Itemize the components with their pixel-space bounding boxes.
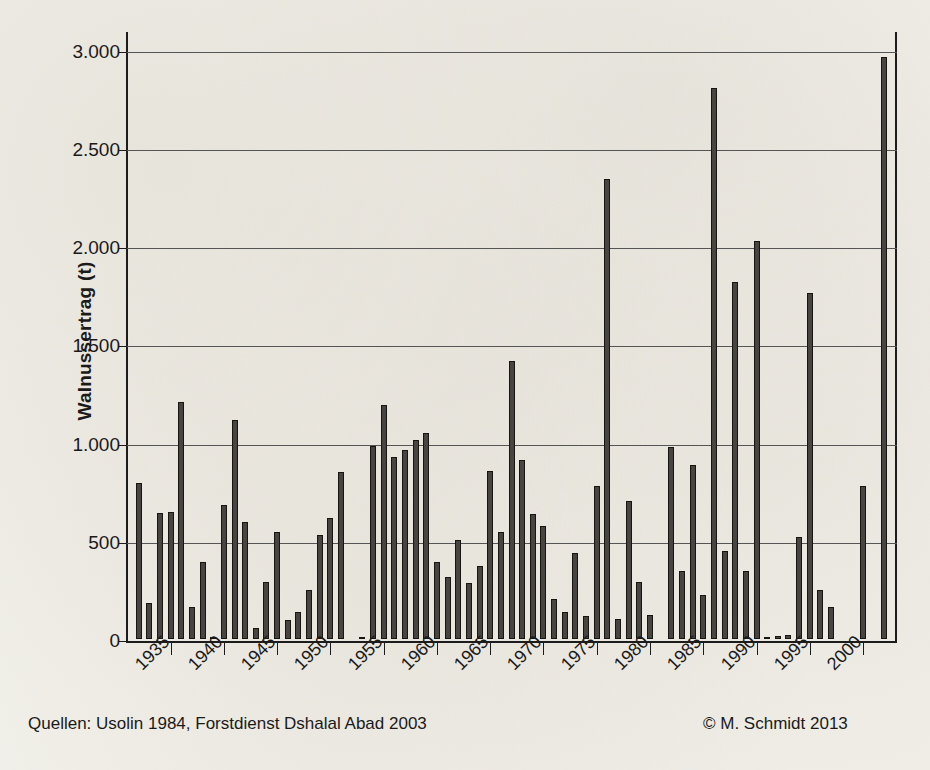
bar-1948: [306, 590, 312, 639]
bar-1932: [136, 483, 142, 639]
bar-1951: [338, 472, 344, 639]
bar-1989: [743, 571, 749, 639]
bar-1949: [317, 535, 323, 639]
walnut-yield-bar-chart: Walnussertrag (t) 05001.0001.5002.0002.5…: [0, 0, 930, 770]
bar-1990: [754, 241, 760, 639]
y-tick-label-1.500: 1.500: [0, 335, 120, 357]
bar-1938: [200, 562, 206, 639]
x-axis-line: [126, 641, 897, 643]
bar-1960: [434, 562, 440, 639]
y-tick-label-1.000: 1.000: [0, 434, 120, 456]
bar-1994: [796, 537, 802, 639]
bar-1968: [519, 460, 525, 639]
y-tick-label-2.000: 2.000: [0, 237, 120, 259]
y-tick-label-0: 0: [0, 630, 120, 652]
bar-1969: [530, 514, 536, 639]
bar-1954: [370, 446, 376, 640]
bar-1944: [263, 582, 269, 639]
plot-area: 05001.0001.5002.0002.5003.000 1935194019…: [126, 32, 897, 643]
bar-1971: [551, 599, 557, 639]
bar-1988: [732, 282, 738, 639]
bar-1985: [700, 595, 706, 639]
bar-series: [126, 32, 897, 641]
bar-1966: [498, 532, 504, 639]
bar-1959: [423, 433, 429, 639]
bar-1970: [540, 526, 546, 639]
bar-1962: [455, 540, 461, 639]
bar-1955: [381, 405, 387, 639]
bar-1945: [274, 532, 280, 639]
bar-1995: [807, 293, 813, 639]
bar-1973: [572, 553, 578, 639]
bar-1941: [232, 420, 238, 639]
bar-1936: [178, 402, 184, 639]
bar-1963: [466, 583, 472, 639]
bar-1940: [221, 505, 227, 639]
bar-1934: [157, 513, 163, 639]
bar-2002: [881, 57, 887, 639]
copyright-credit: © M. Schmidt 2013: [703, 714, 848, 734]
bar-1979: [636, 582, 642, 639]
bar-1933: [146, 603, 152, 639]
y-tick-label-2.500: 2.500: [0, 139, 120, 161]
bar-1987: [722, 551, 728, 639]
bar-1956: [391, 457, 397, 639]
bar-1942: [242, 522, 248, 639]
bar-1950: [327, 518, 333, 639]
bar-1935: [168, 512, 174, 639]
bar-1980: [647, 615, 653, 639]
bar-1937: [189, 607, 195, 639]
bar-2000: [860, 486, 866, 639]
bar-1958: [413, 440, 419, 639]
bar-1947: [295, 612, 301, 639]
bar-1991: [764, 637, 770, 639]
bar-1976: [604, 179, 610, 639]
bar-1972: [562, 612, 568, 639]
y-tick-label-500: 500: [0, 532, 120, 554]
bar-1967: [509, 361, 515, 639]
bar-1997: [828, 607, 834, 639]
bar-1986: [711, 88, 717, 639]
bar-1982: [668, 447, 674, 639]
bar-1975: [594, 486, 600, 639]
bar-1977: [615, 619, 621, 639]
bar-1984: [690, 465, 696, 639]
bar-1961: [445, 577, 451, 639]
bar-1983: [679, 571, 685, 639]
bar-1957: [402, 450, 408, 639]
bar-1992: [775, 636, 781, 639]
source-note: Quellen: Usolin 1984, Forstdienst Dshala…: [28, 714, 427, 734]
bar-1996: [817, 590, 823, 639]
bar-1964: [477, 566, 483, 639]
bar-1978: [626, 501, 632, 639]
bar-1965: [487, 471, 493, 639]
bar-1946: [285, 620, 291, 639]
y-tick-label-3.000: 3.000: [0, 41, 120, 63]
